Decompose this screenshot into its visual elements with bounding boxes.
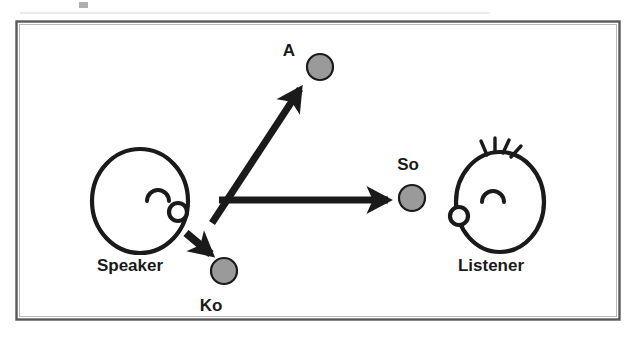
scan-artifact-streak	[20, 12, 490, 14]
sphere-so	[399, 185, 425, 211]
page-background	[0, 0, 637, 341]
speaker-head	[92, 149, 188, 253]
listener-label: Listener	[458, 256, 525, 275]
sphere-a-label: A	[283, 41, 295, 60]
deixis-diagram: Speaker Listener A So	[0, 0, 637, 341]
scan-artifact-mark	[79, 2, 88, 8]
speaker-label: Speaker	[97, 256, 164, 275]
sphere-a	[307, 54, 333, 80]
sphere-ko-label: Ko	[200, 296, 223, 315]
sphere-ko	[211, 258, 237, 284]
listener-ear-icon	[450, 207, 468, 225]
speaker-mouth-icon	[169, 203, 187, 221]
figure-root: Speaker Listener A So	[0, 0, 637, 341]
sphere-so-label: So	[397, 155, 419, 174]
listener-head	[456, 152, 544, 252]
